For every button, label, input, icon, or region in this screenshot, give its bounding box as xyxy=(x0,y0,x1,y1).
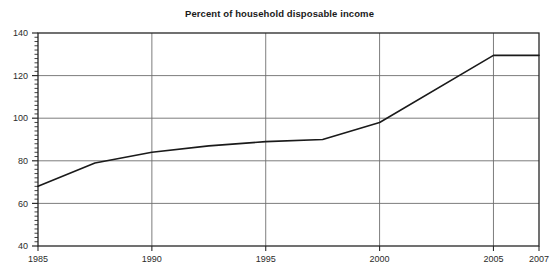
y-axis-tick-label: 140 xyxy=(13,28,28,38)
x-axis-ticks-group xyxy=(38,246,539,251)
x-axis-tick-label: 2000 xyxy=(370,254,390,264)
y-axis-tick-label: 100 xyxy=(13,113,28,123)
data-series-group xyxy=(38,55,539,186)
chart-figure: Percent of household disposable income 4… xyxy=(0,0,559,273)
x-axis-tick-label: 1990 xyxy=(142,254,162,264)
chart-plot-area: 406080100120140 198519901995200020052007 xyxy=(0,0,559,273)
x-axis-tick-label: 1995 xyxy=(256,254,276,264)
y-axis-labels-group: 406080100120140 xyxy=(13,28,28,251)
x-axis-tick-label: 1985 xyxy=(28,254,48,264)
data-line-household-debt xyxy=(38,55,539,186)
y-axis-tick-label: 60 xyxy=(18,199,28,209)
x-axis-tick-label: 2005 xyxy=(483,254,503,264)
x-axis-tick-label: 2007 xyxy=(529,254,549,264)
plot-frame-border xyxy=(38,33,539,246)
y-axis-tick-label: 80 xyxy=(18,156,28,166)
y-axis-ticks-group xyxy=(32,33,38,246)
y-axis-tick-label: 120 xyxy=(13,71,28,81)
gridlines-group xyxy=(38,33,539,246)
y-axis-tick-label: 40 xyxy=(18,241,28,251)
x-axis-labels-group: 198519901995200020052007 xyxy=(28,254,549,264)
